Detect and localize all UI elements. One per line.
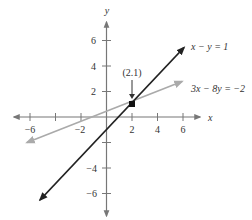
graph: −6 −2 2 4 6 6 4 2 −4 −6 x y x − y = 1 3x… [0,0,252,220]
x-tick-label: −2 [75,124,86,135]
x-tick-label: 4 [155,124,160,135]
point-arrow-head [129,94,135,99]
x-axis-label: x [207,112,213,123]
point-label: (2.1) [122,67,141,79]
intersection-point [129,101,135,107]
line-x-y [40,48,184,201]
y-tick-label: −6 [86,188,97,199]
y-tick-label: 2 [91,86,96,97]
x-tick-label: 2 [130,124,135,135]
x-tick-label: 6 [181,124,186,135]
y-tick-label: −4 [86,163,97,174]
line2-label: 3x − 8y = −2 [190,83,245,94]
y-tick-label: 6 [91,35,96,46]
y-tick-label: 4 [91,61,96,72]
line1-label: x − y = 1 [190,41,228,52]
x-tick-label: −6 [25,124,36,135]
y-axis-label: y [104,5,110,16]
